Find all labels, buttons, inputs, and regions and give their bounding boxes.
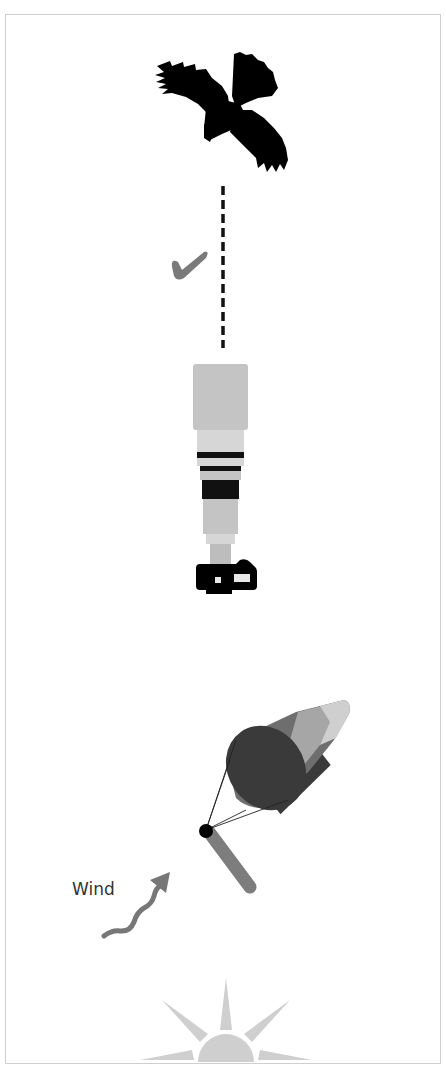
windsock-icon: [199, 700, 350, 887]
diagram-canvas: [0, 0, 446, 1082]
wind-label: Wind: [72, 879, 115, 899]
sun-icon: [140, 978, 312, 1062]
checkmark-icon: [172, 252, 208, 280]
telephoto-camera-icon: [193, 364, 257, 594]
bird-icon: [155, 52, 288, 172]
